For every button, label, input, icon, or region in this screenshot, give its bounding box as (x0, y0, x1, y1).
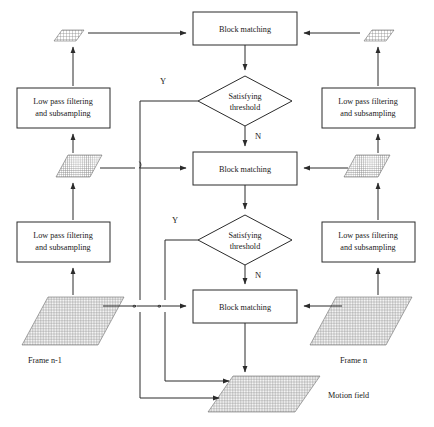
frame-previous-caption: Frame n-1 (28, 356, 62, 365)
grid-right-large (310, 297, 412, 345)
low-pass-upper-left-line1: Low pass filtering (33, 97, 93, 106)
decision-top-label-line2: threshold (230, 103, 260, 112)
decision-top-yes-label: Y (160, 76, 166, 86)
grid-left-medium (56, 155, 102, 177)
low-pass-lower-right-box[interactable] (322, 222, 415, 262)
low-pass-upper-left-box[interactable] (17, 88, 110, 128)
decision-bottom-yes-label: Y (172, 215, 178, 225)
block-matching-top-label: Block matching (219, 25, 271, 34)
block-matching-middle-label: Block matching (219, 165, 271, 174)
motion-field-caption: Motion field (328, 391, 369, 400)
grid-right-medium (344, 155, 390, 177)
low-pass-upper-right-line1: Low pass filtering (338, 97, 398, 106)
frame-current-caption: Frame n (340, 356, 367, 365)
grid-left-small (54, 30, 84, 41)
decision-bottom-label-line2: threshold (230, 242, 260, 251)
decision-bottom-diamond[interactable] (198, 215, 292, 265)
grid-left-large (22, 297, 124, 345)
path-decision-top-yes (140, 101, 219, 398)
low-pass-lower-right-line2: and subsampling (340, 243, 395, 252)
decision-bottom-label-line1: Satisfying (228, 231, 261, 240)
decision-bottom-no-label: N (255, 270, 261, 280)
block-matching-bottom-label: Block matching (219, 303, 271, 312)
low-pass-lower-left-line1: Low pass filtering (33, 231, 93, 240)
decision-top-no-label: N (255, 131, 261, 141)
flowchart-canvas: Block matching Block matching Block matc… (0, 0, 434, 427)
low-pass-upper-left-line2: and subsampling (35, 109, 90, 118)
grid-right-small (364, 30, 394, 41)
low-pass-lower-left-line2: and subsampling (35, 243, 90, 252)
arrow-medium-grid-to-middle-block (100, 162, 186, 169)
low-pass-lower-right-line1: Low pass filtering (338, 231, 398, 240)
low-pass-upper-right-line2: and subsampling (340, 109, 395, 118)
decision-top-label-line1: Satisfying (228, 92, 261, 101)
flowchart-diagram: Block matching Block matching Block matc… (0, 0, 434, 427)
low-pass-upper-right-box[interactable] (322, 88, 415, 128)
low-pass-lower-left-box[interactable] (17, 222, 110, 262)
decision-top-diamond[interactable] (198, 76, 292, 126)
